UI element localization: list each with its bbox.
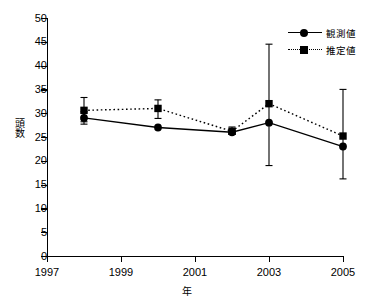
data-point-square bbox=[265, 100, 272, 107]
data-point-square bbox=[228, 128, 235, 135]
legend-item-estimated[interactable]: 推定値 bbox=[288, 41, 372, 58]
legend-item-observed[interactable]: 観測値 bbox=[288, 24, 372, 41]
data-point-square bbox=[339, 132, 346, 139]
series-line-solid bbox=[84, 118, 343, 147]
square-marker-icon bbox=[300, 46, 308, 54]
data-point-square bbox=[154, 105, 161, 112]
series-observed bbox=[80, 44, 347, 179]
data-point-circle bbox=[339, 143, 347, 151]
legend-label-estimated: 推定値 bbox=[326, 43, 356, 57]
data-point-circle bbox=[265, 119, 273, 127]
chart-canvas: 頭数 05101520253035404550 1997199920012003… bbox=[0, 0, 373, 304]
legend-label-observed: 観測値 bbox=[326, 26, 356, 40]
legend-sample-dotted-square bbox=[288, 43, 322, 57]
circle-marker-icon bbox=[300, 29, 308, 37]
legend: 観測値 推定値 bbox=[288, 24, 372, 58]
data-point-square bbox=[80, 107, 87, 114]
series-estimated bbox=[80, 97, 346, 139]
data-point-circle bbox=[154, 124, 162, 132]
legend-sample-solid-circle bbox=[288, 26, 322, 40]
